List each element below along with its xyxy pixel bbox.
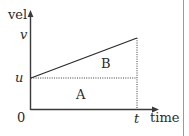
velocity-line	[31, 38, 137, 78]
velocity-time-graph-figure: vel v u 0 t time A B	[0, 0, 189, 136]
y-axis-caption: vel	[8, 8, 27, 21]
origin-label: 0	[17, 111, 25, 124]
y-axis-tick-label-u: u	[15, 71, 23, 84]
y-axis-arrow-icon	[28, 10, 34, 17]
x-axis-caption: time	[150, 111, 179, 124]
y-axis-tick-label-v: v	[20, 28, 27, 41]
region-label-a: A	[76, 88, 85, 101]
region-label-b: B	[101, 57, 111, 70]
x-axis-tick-label-t: t	[134, 112, 139, 125]
